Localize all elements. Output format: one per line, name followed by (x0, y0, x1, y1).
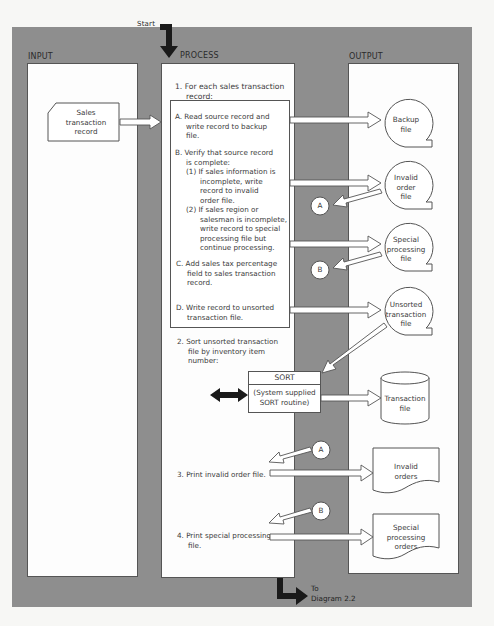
connector-b-label-lower: B (315, 506, 327, 516)
unsorted-transaction-file-label: Unsorted transaction file (378, 300, 434, 329)
process-substep-b1: (1) If sales information is incomplete, … (186, 167, 276, 205)
special-processing-orders-label: Special processing orders (376, 523, 436, 552)
input-sales-transaction-record-label: Sales transaction record (56, 108, 116, 137)
input-column-header: INPUT (28, 52, 53, 61)
connector-b-label-upper: B (314, 265, 326, 275)
process-substep-a: A. Read source record and write record t… (175, 112, 270, 141)
to-diagram-label: To Diagram 2.2 (311, 584, 356, 603)
process-step-1: 1. For each sales transaction record: (175, 82, 284, 101)
connector-a-label-upper: A (314, 201, 326, 211)
invalid-orders-label: Invalid orders (376, 462, 436, 481)
transaction-file-label: Transaction file (378, 394, 432, 413)
special-processing-file-label: Special processing file (380, 235, 432, 264)
process-substep-b: B. Verify that source record is complete… (175, 148, 273, 167)
sort-title: SORT (249, 372, 320, 385)
process-substep-b2: (2) If sales region or salesman is incom… (186, 205, 287, 253)
sort-routine-box: SORT (System supplied SORT routine) (248, 371, 321, 413)
process-step-2: 2. Sort unsorted transaction file by inv… (177, 337, 278, 366)
start-label: Start (137, 20, 155, 28)
process-substep-d: D. Write record to unsorted transaction … (176, 303, 274, 322)
process-step-3: 3. Print invalid order file. (177, 470, 266, 480)
input-column (27, 63, 138, 577)
process-column-header: PROCESS (180, 51, 219, 60)
backup-file-label: Backup file (383, 115, 429, 134)
output-column-header: OUTPUT (349, 52, 383, 61)
sort-description: (System supplied SORT routine) (249, 385, 320, 407)
invalid-order-file-label: Invalid order file (383, 173, 429, 202)
process-step-4: 4. Print special processing file. (177, 531, 271, 550)
process-substep-c: C. Add sales tax percentage field to sal… (176, 259, 277, 288)
connector-a-label-lower: A (315, 445, 327, 455)
